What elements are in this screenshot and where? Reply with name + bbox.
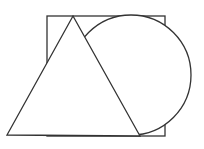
shapes-diagram (0, 0, 204, 149)
